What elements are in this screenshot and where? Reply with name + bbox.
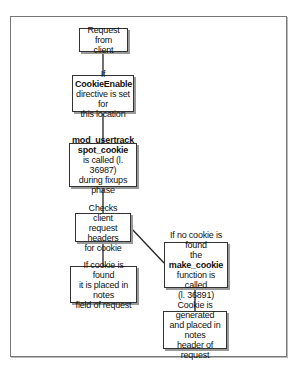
node-cookie-not-found: If no cookie is foundthe make_cookiefunc… <box>164 242 228 288</box>
node-text-line: (l. 36891) <box>167 290 225 300</box>
node-text-line: header of request <box>166 340 224 360</box>
node-text-line: for cookie <box>78 243 128 253</box>
node-text-line: If cookie is found <box>73 260 134 280</box>
node-text-line: Request from <box>82 25 125 45</box>
node-request-from-client: Request fromclient <box>79 28 128 52</box>
node-checks-headers: Checks clientrequest headersfor cookie <box>75 213 131 242</box>
node-text-line: during fixups phase <box>72 175 134 195</box>
node-cookie-generated: Cookie is generatedand placed in noteshe… <box>163 311 227 349</box>
node-text-line: directive is set for <box>75 89 131 109</box>
node-text-line: field of request <box>73 300 134 310</box>
node-spot-cookie: mod_usertrackspot_cookieis called (l. 36… <box>69 143 137 187</box>
node-text-line: If CookieEnable <box>75 69 131 89</box>
connector-lines <box>0 0 297 372</box>
node-text-line: spot_cookie <box>72 145 134 155</box>
node-cookie-found: If cookie is foundit is placed in notesf… <box>70 266 137 303</box>
node-text-line: function is called <box>167 270 225 290</box>
node-text-line: mod_usertrack <box>72 135 134 145</box>
node-text-line: this location <box>75 109 131 119</box>
node-text-line: is called (l. 36987) <box>72 155 134 175</box>
node-text-line: and placed in notes <box>166 320 224 340</box>
node-text-line: the make_cookie <box>167 250 225 270</box>
node-text-line: If no cookie is found <box>167 230 225 250</box>
node-text-line: Cookie is generated <box>166 300 224 320</box>
node-text-line: client <box>82 45 125 55</box>
node-text-line: request headers <box>78 223 128 243</box>
node-text-line: Checks client <box>78 203 128 223</box>
node-text-line: it is placed in notes <box>73 280 134 300</box>
node-cookieenable-check: If CookieEnabledirective is set forthis … <box>72 75 134 112</box>
